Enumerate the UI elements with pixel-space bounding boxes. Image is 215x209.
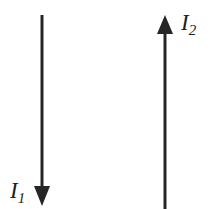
physics-figure-two-parallel-wires: I1 I2 — [0, 0, 215, 209]
wire-1-group — [34, 15, 50, 206]
wire-1-arrowhead-down-icon — [34, 186, 50, 206]
current-symbol-i1: I — [10, 178, 18, 203]
current-label-i2: I2 — [181, 11, 196, 38]
current-symbol-i2: I — [181, 10, 189, 35]
wire-2-arrowhead-up-icon — [157, 15, 173, 34]
current-subscript-i1: 1 — [18, 190, 26, 206]
current-label-i1: I1 — [10, 179, 25, 206]
wire-2-group — [157, 15, 173, 209]
current-subscript-i2: 2 — [189, 22, 197, 38]
